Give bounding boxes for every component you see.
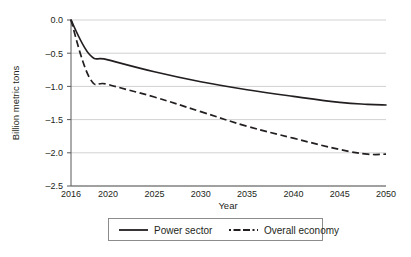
y-tick-label-0: 0.0 [50, 15, 63, 25]
x-tick-label-4: 2035 [237, 189, 257, 199]
legend-label-overall-economy: Overall economy [264, 225, 339, 236]
chart-svg: 0.0 –0.5 –1.0 –1.5 –2.0 –2.5 Billion met… [0, 0, 411, 257]
x-tick-label-5: 2040 [283, 189, 303, 199]
y-tick-label-4: –2.0 [45, 148, 63, 158]
x-tick-label-0: 2016 [61, 189, 81, 199]
legend-label-power-sector: Power sector [154, 225, 213, 236]
x-tick-label-7: 2050 [376, 189, 396, 199]
chart-legend: Power sector Overall economy [109, 219, 340, 241]
x-tick-label-1: 2020 [98, 189, 118, 199]
x-tick-label-6: 2045 [330, 189, 350, 199]
x-tick-label-3: 2030 [191, 189, 211, 199]
chart-figure: 0.0 –0.5 –1.0 –1.5 –2.0 –2.5 Billion met… [0, 0, 411, 257]
y-tick-label-2: –1.0 [45, 82, 63, 92]
y-axis-title: Billion metric tons [10, 66, 21, 141]
y-tick-label-3: –1.5 [45, 115, 63, 125]
y-tick-label-1: –0.5 [45, 49, 63, 59]
x-axis-title: Year [218, 200, 237, 211]
x-tick-label-2: 2025 [144, 189, 164, 199]
